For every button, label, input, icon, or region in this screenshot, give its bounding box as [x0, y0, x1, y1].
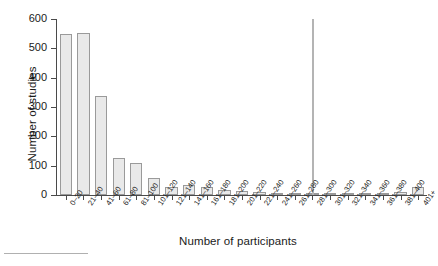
x-axis-tick	[101, 196, 102, 200]
x-axis-tick	[83, 196, 84, 200]
y-axis-tick-label: 600	[29, 12, 47, 24]
x-axis-tick	[330, 196, 331, 200]
bottom-rule-divider	[4, 253, 88, 254]
y-axis-tick: 500	[51, 48, 56, 49]
x-axis-tick	[207, 196, 208, 200]
x-axis-tick	[136, 196, 137, 200]
x-axis-tick	[383, 196, 384, 200]
x-axis-tick	[277, 196, 278, 200]
y-axis-tick-label: 400	[29, 71, 47, 83]
bar-chart-figure: Number of studies 0100200300400500600 0–…	[0, 0, 438, 266]
y-axis-tick: 200	[51, 136, 56, 137]
y-axis-tick: 0	[51, 195, 56, 196]
y-axis-tick: 600	[51, 19, 56, 20]
x-axis-tick	[401, 196, 402, 200]
y-axis-tick-label: 0	[41, 188, 47, 200]
plot-area	[57, 19, 427, 195]
y-axis-tick: 300	[51, 107, 56, 108]
y-axis-tick-label: 200	[29, 129, 47, 141]
x-axis-tick	[260, 196, 261, 200]
y-axis-tick: 100	[51, 166, 56, 167]
y-axis-tick-label: 300	[29, 100, 47, 112]
x-axis-tick	[295, 196, 296, 200]
x-axis-tick	[154, 196, 155, 200]
vertical-spike-line	[312, 19, 313, 195]
x-axis-title: Number of participants	[52, 235, 424, 247]
y-axis-tick-label: 100	[29, 159, 47, 171]
x-axis-tick	[172, 196, 173, 200]
y-axis-tick-label: 500	[29, 41, 47, 53]
x-axis-tick	[348, 196, 349, 200]
x-axis-tick	[66, 196, 67, 200]
x-axis-tick	[312, 196, 313, 200]
y-axis-tick: 400	[51, 78, 56, 79]
x-axis-tick	[119, 196, 120, 200]
x-axis-tick	[418, 196, 419, 200]
bar	[95, 96, 107, 195]
bar	[60, 34, 72, 195]
x-axis-tick	[189, 196, 190, 200]
x-axis-tick	[242, 196, 243, 200]
bar	[77, 33, 89, 195]
x-axis-tick	[365, 196, 366, 200]
x-axis-tick	[224, 196, 225, 200]
